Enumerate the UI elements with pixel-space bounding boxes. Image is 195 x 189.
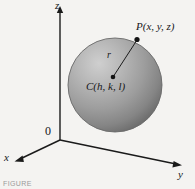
radius-label: r	[107, 50, 111, 60]
y-axis	[60, 140, 182, 167]
x-axis	[15, 140, 61, 162]
z-axis	[57, 6, 63, 140]
center-c-label: C(h, k, l)	[86, 81, 125, 92]
z-axis-label: z	[55, 0, 59, 11]
y-axis-label: y	[178, 169, 183, 180]
point-p-marker	[134, 37, 139, 42]
origin-label: 0	[45, 125, 51, 137]
sphere-coordinate-figure: z x y 0 P(x, y, z) C(h, k, l) r FIGURE	[0, 0, 195, 189]
point-p-label: P(x, y, z)	[136, 21, 174, 32]
point-c-marker	[111, 75, 116, 80]
figure-caption: FIGURE	[3, 180, 32, 187]
x-axis-label: x	[4, 152, 9, 163]
